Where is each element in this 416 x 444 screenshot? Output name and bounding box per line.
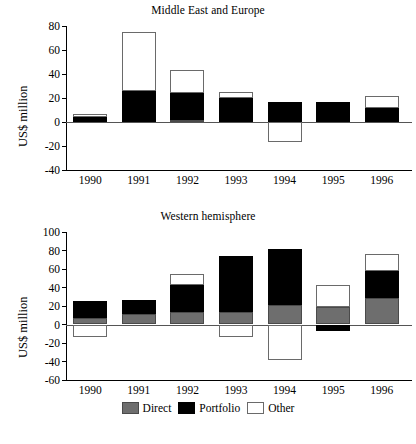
y-axis [66,26,67,170]
y-axis-tick-label: -20 [30,140,60,152]
y-axis-tick [62,170,66,171]
bar-segment [73,301,107,318]
bar-segment [219,325,253,337]
bar-segment [316,325,350,331]
bar-segment [122,91,156,122]
bar-segment [365,254,399,271]
chart-title: Western hemisphere [0,210,416,222]
bar-segment [170,312,204,324]
figure-root: Middle East and Europe US$ million 80604… [0,0,416,444]
y-axis-tick-label: 60 [30,263,60,275]
y-axis-label: US$ million [16,297,31,358]
x-axis [66,170,412,171]
bar-segment [365,271,399,298]
zero-baseline [66,122,412,123]
bar-segment [219,256,253,312]
legend-item-direct: Direct [122,402,172,414]
bar-segment [122,32,156,91]
y-axis-tick [62,26,66,27]
y-axis-tick [62,269,66,270]
legend-item-other: Other [247,402,294,414]
bar-segment [316,307,350,325]
y-axis-tick-label: 40 [30,68,60,80]
y-axis-tick-label: 20 [30,300,60,312]
bar-segment [365,298,399,325]
y-axis-tick [62,50,66,51]
bar-segment [268,249,302,305]
y-axis-tick [62,232,66,233]
bar-segment [316,285,350,307]
plot-area: 806040200-20-401990199119921993199419951… [66,26,406,170]
legend-label-direct: Direct [143,402,172,414]
bar-segment [122,300,156,314]
legend-swatch-direct-icon [122,402,139,414]
y-axis-tick-label: -40 [30,356,60,368]
legend-swatch-portfolio-icon [178,402,195,414]
chart-legend: Direct Portfolio Other [0,402,416,414]
y-axis-tick [62,146,66,147]
y-axis-tick-label: 20 [30,92,60,104]
bar-segment [170,70,204,93]
y-axis-tick-label: 80 [30,20,60,32]
y-axis-tick [62,98,66,99]
chart-title: Middle East and Europe [0,4,416,16]
bar-segment [268,325,302,360]
y-axis-tick-label: 0 [30,116,60,128]
y-axis-tick [62,306,66,307]
bar-segment [268,102,302,122]
bar-segment [122,314,156,324]
bar-segment [219,312,253,324]
y-axis-tick [62,324,66,325]
y-axis-label: US$ million [16,86,31,147]
y-axis-tick-label: 100 [30,226,60,238]
bar-segment [219,98,253,122]
bar-segment [268,122,302,142]
bar-segment [170,93,204,119]
y-axis-tick [62,250,66,251]
legend-item-portfolio: Portfolio [178,402,240,414]
bar-segment [268,305,302,324]
plot-area: 100806040200-20-40-601990199119921993199… [66,232,406,380]
bar-segment [73,318,107,324]
bar-segment [365,96,399,108]
y-axis-tick-label: -20 [30,337,60,349]
bar-segment [73,325,107,337]
bar-segment [170,285,204,313]
legend-label-portfolio: Portfolio [199,402,240,414]
y-axis-tick [62,287,66,288]
chart-panel-middle-east-europe: Middle East and Europe US$ million 80604… [0,0,416,208]
x-axis [66,380,412,381]
y-axis-tick-label: 0 [30,319,60,331]
y-axis-tick-label: 40 [30,282,60,294]
y-axis-tick [62,380,66,381]
bar-segment [316,102,350,122]
y-axis-tick-label: 60 [30,44,60,56]
y-axis-tick [62,74,66,75]
bar-segment [73,117,107,122]
bar-segment [170,274,204,285]
legend-swatch-other-icon [247,402,264,414]
y-axis-tick [62,122,66,123]
bar-segment [365,108,399,122]
y-axis-tick [62,343,66,344]
bar-segment [170,120,204,122]
y-axis-tick-label: 80 [30,245,60,257]
x-axis-tick-label: 1996 [352,384,412,396]
y-axis-tick-label: -40 [30,164,60,176]
y-axis-tick-label: -60 [30,374,60,386]
y-axis-tick [62,361,66,362]
y-axis [66,232,67,380]
legend-label-other: Other [268,402,294,414]
x-axis-tick-label: 1996 [352,174,412,186]
chart-panel-western-hemisphere: Western hemisphere US$ million 100806040… [0,208,416,416]
